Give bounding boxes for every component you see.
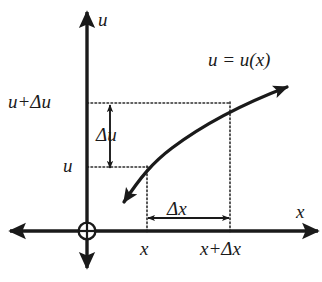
origin-marker-icon [79, 223, 96, 240]
y-tick-label-u: u [63, 156, 73, 175]
y-tick-label-u-plus-delta-u: u+Δu [8, 92, 51, 111]
x-tick-label-x-plus-delta-x: x+Δx [200, 239, 241, 258]
function-curve [124, 87, 287, 202]
x-tick-label-x: x [140, 239, 148, 258]
y-axis-label: u [98, 10, 108, 29]
delta-u-label: Δu [96, 125, 117, 144]
derivative-increment-diagram: u x u = u(x) u+Δu u Δu Δx x x+Δx [0, 0, 322, 282]
diagram-canvas [0, 0, 322, 282]
curve-equation-label: u = u(x) [208, 50, 270, 69]
delta-x-label: Δx [167, 199, 187, 218]
x-axis-label: x [296, 202, 304, 221]
